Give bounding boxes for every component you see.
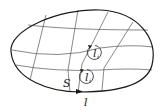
loop-lower: l i xyxy=(79,69,93,84)
loop-upper: l i xyxy=(87,45,101,60)
grid-line-h3 xyxy=(16,65,152,70)
loop-lower-subscript: i xyxy=(89,77,91,84)
grid-line-v4 xyxy=(102,22,133,90)
boundary-curve xyxy=(11,10,153,92)
loop-upper-subscript: i xyxy=(97,53,99,60)
boundary-arrow-icon xyxy=(76,89,83,94)
surface-diagram: l i l i S l xyxy=(0,0,164,112)
surface-label: S xyxy=(63,77,71,90)
grid-line-h2 xyxy=(12,46,153,55)
grid-line-h1 xyxy=(28,25,148,30)
grid-line-v1 xyxy=(30,15,46,80)
boundary-label: l xyxy=(84,96,88,109)
